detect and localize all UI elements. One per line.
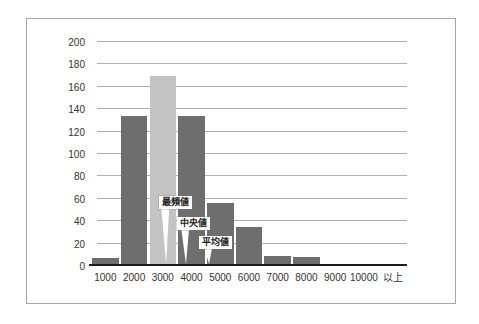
y-tick-label: 180 (68, 59, 85, 70)
y-tick-label: 20 (74, 238, 85, 249)
x-tick-label: 5000 (206, 272, 235, 283)
x-tick-label: 3000 (148, 272, 177, 283)
y-tick-label: 140 (68, 104, 85, 115)
page: 0204060801001201401601802001000200030004… (0, 0, 479, 324)
bar-3000 (150, 76, 177, 266)
bar-6000 (236, 227, 263, 266)
x-tick-label: 2000 (120, 272, 149, 283)
bar-2000 (121, 116, 148, 266)
callout-mean: 平均値 (199, 236, 232, 249)
x-tick-label: 9000 (321, 272, 350, 283)
x-tick-label: 以上 (378, 272, 407, 283)
y-tick-label: 100 (68, 149, 85, 160)
y-tick-label: 80 (74, 171, 85, 182)
callout-mode: 最頻値 (159, 196, 192, 209)
y-tick-label: 120 (68, 126, 85, 137)
gridline-200 (97, 41, 407, 42)
x-tick-label: 6000 (235, 272, 264, 283)
y-tick-label: 40 (74, 216, 85, 227)
callout-median: 中央値 (177, 217, 210, 230)
gridline-180 (97, 63, 407, 64)
x-tick-label: 1000 (91, 272, 120, 283)
x-tick-label: 8000 (292, 272, 321, 283)
x-axis-line (89, 264, 407, 266)
gridline-160 (97, 86, 407, 87)
bar-5000 (207, 203, 234, 266)
y-tick-label: 200 (68, 37, 85, 48)
y-tick-label: 160 (68, 81, 85, 92)
gridline-140 (97, 108, 407, 109)
x-tick-label: 7000 (263, 272, 292, 283)
x-tick-label: 4000 (177, 272, 206, 283)
y-tick-label: 60 (74, 193, 85, 204)
plot-area: 0204060801001201401601802001000200030004… (91, 42, 407, 266)
x-tick-label: 10000 (350, 272, 379, 283)
y-tick-label: 0 (79, 261, 85, 272)
chart-panel: 0204060801001201401601802001000200030004… (26, 18, 456, 304)
